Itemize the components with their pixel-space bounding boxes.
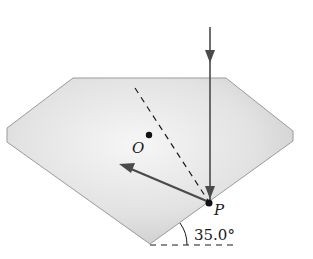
point-label: P (213, 201, 225, 219)
point-p-dot (206, 200, 213, 207)
incident-arrowhead-top (205, 50, 215, 63)
prism-shape (7, 78, 293, 244)
diagram-canvas: O P 35.0° (0, 0, 313, 259)
angle-arc (180, 223, 187, 245)
prism-diagram: O P 35.0° (0, 0, 313, 259)
angle-label: 35.0° (194, 226, 235, 244)
center-label: O (132, 139, 144, 157)
center-dot (146, 132, 152, 138)
